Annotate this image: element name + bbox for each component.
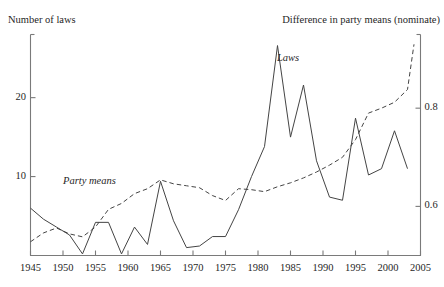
series-line-party-means (31, 44, 415, 241)
left-axis-tick-label: 10 (0, 170, 26, 181)
x-axis-tick-label: 1975 (211, 262, 241, 273)
left-axis-tick-label: 20 (0, 91, 26, 102)
x-axis-tick-label: 1945 (16, 262, 46, 273)
chart-figure: ~ ~ ~~ ~~ ~ ~ Number of laws Difference … (0, 0, 444, 287)
x-axis-tick-label: 1960 (113, 262, 143, 273)
right-axis-tick-label: 0.6 (425, 199, 444, 210)
x-axis-tick-label: 2005 (406, 262, 436, 273)
x-axis-tick-label: 1950 (48, 262, 78, 273)
x-axis-tick-label: 1955 (81, 262, 111, 273)
x-axis-tick-label: 1965 (146, 262, 176, 273)
series-line-laws (31, 46, 408, 254)
series-label-laws: Laws (277, 52, 299, 63)
x-axis-tick-label: 1980 (243, 262, 273, 273)
x-axis-tick-label: 2000 (373, 262, 403, 273)
x-axis-tick-label: 1990 (308, 262, 338, 273)
series-label-party-means: Party means (63, 175, 116, 186)
x-axis-tick-label: 1995 (341, 262, 371, 273)
x-axis-tick-label: 1970 (178, 262, 208, 273)
plot-area (0, 0, 444, 287)
right-axis-tick-label: 0.8 (425, 101, 444, 112)
data-series (31, 44, 415, 254)
x-axis-tick-label: 1985 (276, 262, 306, 273)
